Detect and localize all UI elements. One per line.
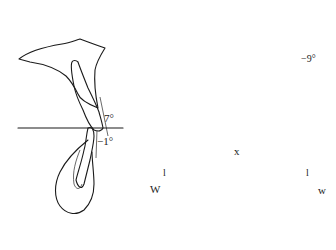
incisor-lateral-panel xyxy=(18,39,123,213)
maxilla-outline xyxy=(19,39,105,108)
right-w-label: w xyxy=(318,185,326,196)
molar-angle-label: −9° xyxy=(301,54,316,64)
lower-incisor-root xyxy=(73,150,82,189)
intermolar-width-label: x xyxy=(234,146,240,157)
mandible-outline xyxy=(56,140,95,213)
lower-incisor-angle-label: −1° xyxy=(97,136,113,147)
lower-incisor xyxy=(76,127,94,187)
left-tick-label: l xyxy=(163,168,166,178)
left-w-label: W xyxy=(150,184,160,195)
upper-incisor-angle-label: 7° xyxy=(104,113,114,124)
upper-incisor xyxy=(71,61,103,132)
right-tick-label: l xyxy=(306,168,309,178)
dental-diagram xyxy=(0,0,336,250)
